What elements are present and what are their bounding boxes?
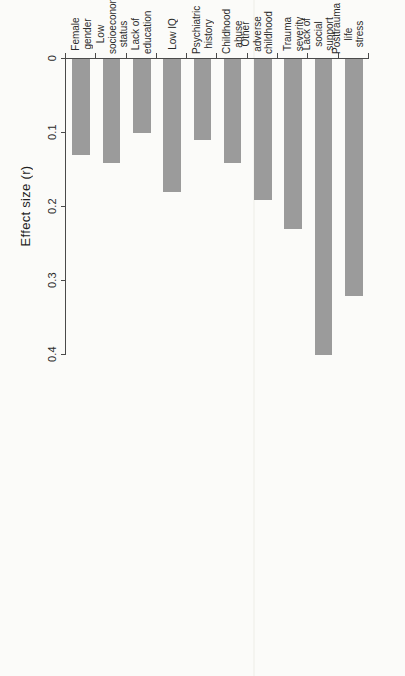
category-axis-label: Posttraumalife stress [331,14,366,54]
chart-page: 00.10.20.30.4 FemalegenderLowsocioeconom… [0,0,405,676]
category-axis-label-line: Posttrauma [331,14,343,54]
category-axis-label-line: Lack of social [301,14,324,54]
category-axis-label-line: Trauma [282,14,294,54]
category-axis-label-line: childhood [263,14,275,54]
category-axis-tick [368,53,369,58]
category-axis-tick [217,53,218,58]
category-axis-label-line: Female [70,14,82,54]
bar [133,59,151,133]
value-axis-tick [61,58,66,59]
category-axis-label-line: Low IQ [166,14,178,54]
category-axis-label: Low IQ [166,14,178,54]
category-axis-label-line: status [117,14,129,54]
value-axis-tick [61,132,66,133]
bar [345,59,363,296]
bar [254,59,272,200]
value-axis-tick-label: 0 [46,55,58,61]
category-axis-label: Lowsocioeconomicstatus [94,14,129,54]
category-axis-label-line: Other adverse [240,14,263,54]
category-axis-label: Lack ofeducation [130,14,153,54]
category-axis-label: Femalegender [70,14,93,54]
category-axis-tick [156,53,157,58]
plot-area: 00.10.20.30.4 FemalegenderLowsocioeconom… [0,0,405,676]
category-axis-label-line: socioeconomic [106,14,118,54]
bar [103,59,121,163]
bar [315,59,333,355]
category-axis-tick [277,53,278,58]
value-axis-title: Effect size (r) [18,58,33,354]
rotated-figure: 00.10.20.30.4 FemalegenderLowsocioeconom… [0,0,405,676]
bar [224,59,242,163]
category-axis-label-line: gender [81,14,93,54]
category-axis-label-line: Lack of [130,14,142,54]
bar [194,59,212,140]
category-axis-label-line: Low [94,14,106,54]
value-axis-tick-label: 0.4 [46,346,58,362]
category-axis-label: Psychiatrichistory [191,14,214,54]
category-axis-tick [186,53,187,58]
value-axis-tick [61,206,66,207]
value-axis-tick [61,280,66,281]
category-axis-label-line: Psychiatric [191,14,203,54]
value-axis-tick-label: 0.2 [46,198,58,214]
bar [284,59,302,229]
category-axis-label-line: Childhood [221,14,233,54]
category-axis-label-line: life stress [342,14,365,54]
value-axis-tick-label: 0.1 [46,124,58,140]
bar [163,59,181,192]
category-axis-tick [65,53,66,58]
category-axis-label-line: history [202,14,214,54]
bar [72,59,90,155]
category-axis-label-line: education [142,14,154,54]
value-axis-tick-label: 0.3 [46,272,58,288]
value-axis-tick [61,354,66,355]
category-axis-label: Other adversechildhood [240,14,275,54]
